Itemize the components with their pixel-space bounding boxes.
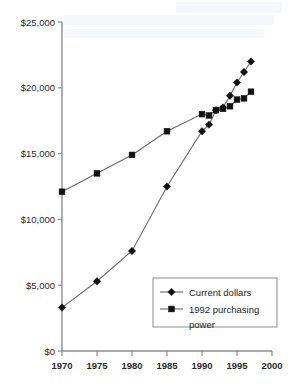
data-point-marker — [241, 95, 247, 101]
data-series-group — [58, 58, 254, 311]
data-point-marker — [240, 68, 247, 75]
data-point-marker — [234, 97, 240, 103]
y-axis-tick-label: $15,000 — [21, 148, 55, 159]
chart-container: $0$5,000$10,000$15,000$20,000$25,000 197… — [0, 0, 296, 386]
data-point-marker — [233, 79, 240, 86]
data-point-marker — [163, 183, 170, 190]
data-point-marker — [213, 107, 219, 113]
legend-label: Current dollars — [189, 287, 252, 298]
x-axis-tick-label: 1975 — [86, 360, 108, 371]
data-point-marker — [199, 111, 205, 117]
data-point-marker — [164, 128, 170, 134]
legend-label-line2: power — [189, 319, 215, 330]
y-axis-tick-label: $5,000 — [26, 280, 55, 291]
data-point-marker — [206, 113, 212, 119]
data-point-marker — [59, 189, 65, 195]
data-point-marker — [220, 106, 226, 112]
y-axis-tick-label: $10,000 — [21, 214, 55, 225]
y-axis-tick-label: $25,000 — [21, 17, 55, 28]
legend-square-marker-icon — [169, 306, 175, 312]
x-axis-tick-label: 1970 — [51, 360, 72, 371]
x-axis-tick-label: 1990 — [191, 360, 212, 371]
data-point-marker — [248, 89, 254, 95]
legend-label: 1992 purchasing — [189, 304, 259, 315]
data-point-marker — [227, 103, 233, 109]
x-axis-tick-label: 1985 — [156, 360, 178, 371]
line-chart: $0$5,000$10,000$15,000$20,000$25,000 197… — [0, 0, 296, 386]
y-axis-tick-label: $20,000 — [21, 82, 55, 93]
data-point-marker — [94, 170, 100, 176]
x-axis-tick-label: 1980 — [121, 360, 142, 371]
legend-box — [153, 278, 277, 327]
data-point-marker — [129, 152, 135, 158]
y-axis: $0$5,000$10,000$15,000$20,000$25,000 — [21, 17, 62, 357]
x-axis-tick-label: 2000 — [261, 360, 282, 371]
x-axis-tick-label: 1995 — [226, 360, 248, 371]
data-point-marker — [247, 58, 254, 65]
x-axis: 1970197519801985199019952000 — [51, 351, 282, 371]
data-point-marker — [226, 92, 233, 99]
y-axis-tick-label: $0 — [44, 346, 55, 357]
chart-legend: Current dollars1992 purchasingpower — [153, 278, 277, 330]
series-1 — [58, 58, 254, 311]
